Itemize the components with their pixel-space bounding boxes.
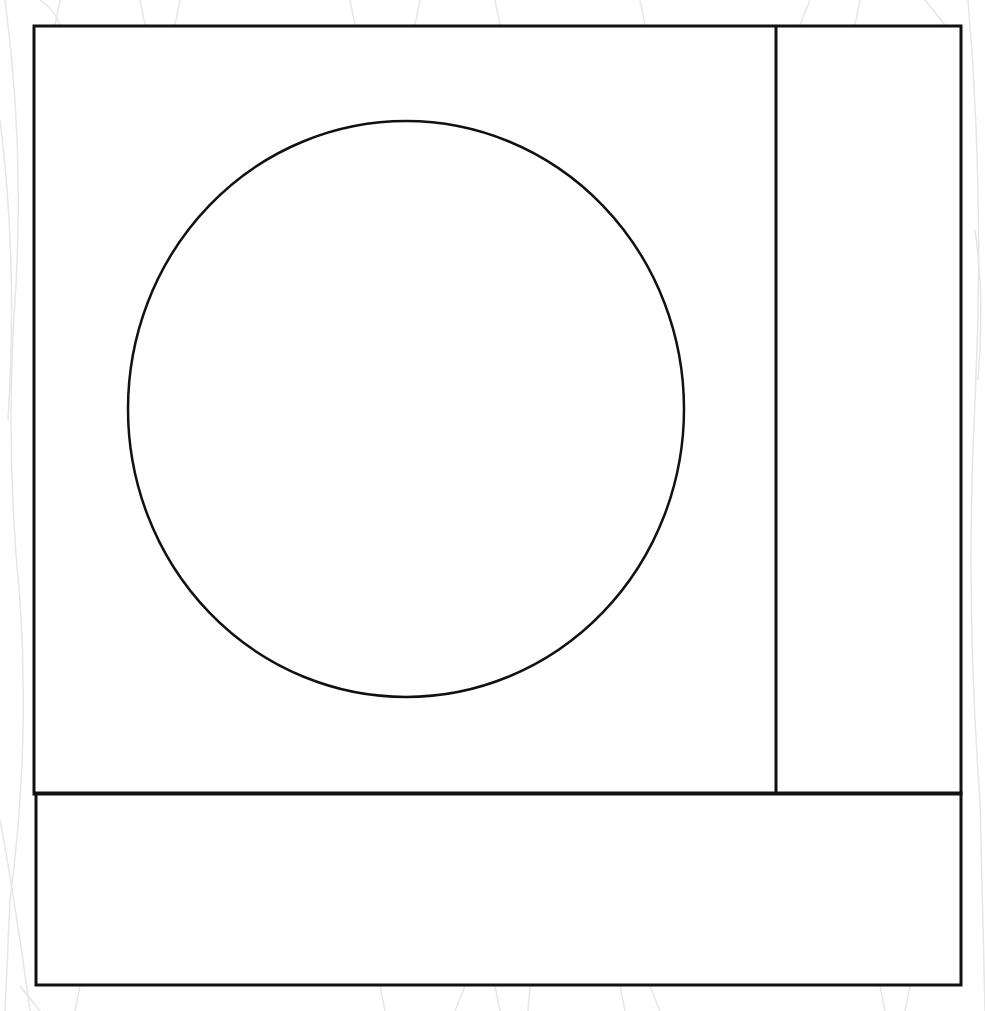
diagram-canvas bbox=[0, 0, 985, 1011]
bottom-panel bbox=[36, 793, 961, 985]
main-frame bbox=[34, 26, 961, 794]
diagram-lines bbox=[34, 26, 961, 985]
background-texture bbox=[0, 0, 985, 1011]
circle-shape bbox=[128, 121, 684, 697]
